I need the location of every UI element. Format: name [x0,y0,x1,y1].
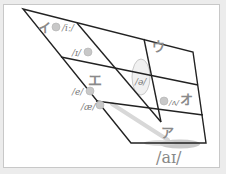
ipa-ae: /æ/ [80,102,96,112]
vowel-chart: イ ウ エ オ ア /iː/ /ɪ/ /ə/ /e/ /æ/ /ʌ/ /aɪ/ [0,0,226,174]
kana-u: ウ [152,39,165,54]
dot-i-long [52,23,60,31]
dot-ae [96,101,104,109]
dot-e [86,87,94,95]
ipa-ai: /aɪ/ [156,148,182,167]
ipa-schwa: /ə/ [134,77,147,87]
kana-o: オ [180,92,193,107]
dot-ih [84,48,92,56]
ipa-ih: /ɪ/ [71,48,82,58]
ipa-i-long: /iː/ [61,23,75,33]
kana-e: エ [88,72,102,88]
ai-glide [112,104,200,149]
kana-a: ア [161,125,174,140]
kana-i: イ [38,20,51,35]
ipa-wedge: /ʌ/ [168,98,180,107]
ipa-e: /e/ [71,87,84,97]
dot-wedge [160,97,168,105]
